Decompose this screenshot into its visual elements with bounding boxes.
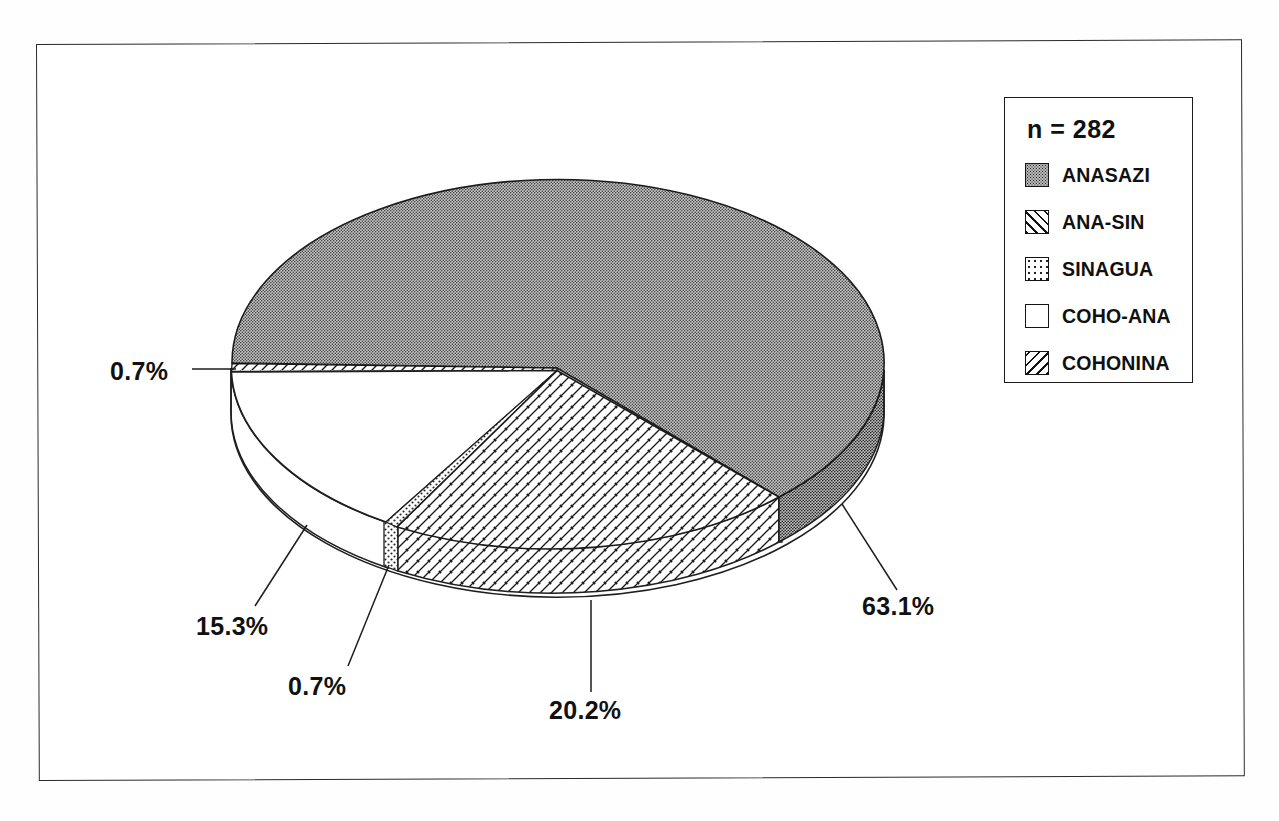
legend-swatch-sparse-stipple-icon — [1025, 257, 1049, 281]
callout-ana-sin: 20.2% — [549, 696, 621, 725]
legend-item-label: SINAGUA — [1062, 258, 1153, 281]
callout-coho-ana: 15.3% — [196, 612, 268, 641]
leader-coho-ana — [255, 525, 307, 606]
callout-sinagua: 0.7% — [288, 672, 346, 701]
slice-side-sinagua — [384, 521, 398, 571]
legend-item-label: COHO-ANA — [1062, 305, 1171, 328]
leader-sinagua — [348, 565, 389, 666]
legend-sample-size: n = 282 — [1027, 115, 1116, 144]
legend-item-label: ANASAZI — [1062, 164, 1150, 187]
legend-item-cohonina[interactable]: COHONINA — [1025, 348, 1170, 378]
legend-item-coho-ana[interactable]: COHO-ANA — [1025, 301, 1171, 331]
legend-swatch-diagonal-hatch-up-icon — [1025, 210, 1049, 234]
pie-3d-group — [192, 179, 897, 692]
legend-swatch-diagonal-hatch-down-icon — [1025, 351, 1049, 375]
legend-item-anasazi[interactable]: ANASAZI — [1025, 160, 1150, 190]
chart-page: 0.7%15.3%0.7%20.2%63.1% n = 282 ANASAZIA… — [0, 0, 1279, 821]
leader-anasazi — [842, 504, 897, 590]
legend-item-ana-sin[interactable]: ANA-SIN — [1025, 207, 1145, 237]
callout-anasazi: 63.1% — [862, 592, 934, 621]
legend-box: n = 282 ANASAZIANA-SINSINAGUACOHO-ANACOH… — [1004, 97, 1193, 383]
legend-item-label: ANA-SIN — [1062, 211, 1145, 234]
legend-swatch-solid-white-icon — [1025, 304, 1049, 328]
callout-cohonina: 0.7% — [110, 357, 168, 386]
legend-item-label: COHONINA — [1062, 352, 1170, 375]
legend-swatch-dense-stipple-icon — [1025, 163, 1049, 187]
legend-item-sinagua[interactable]: SINAGUA — [1025, 254, 1153, 284]
